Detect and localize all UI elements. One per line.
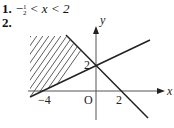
y-axis-arrow-icon bbox=[93, 26, 99, 34]
tick-label-x-2: 2 bbox=[116, 93, 122, 107]
origin-label: O bbox=[84, 93, 93, 107]
x-axis-label: x bbox=[166, 84, 173, 98]
tick-label-y-2: 2 bbox=[84, 58, 90, 72]
inequality-graph: y x O −4 2 2 bbox=[0, 0, 174, 128]
x-axis-arrow-icon bbox=[157, 88, 165, 94]
boundary-line-1 bbox=[30, 40, 150, 97]
tick-label-x-neg4: −4 bbox=[38, 93, 51, 107]
y-axis-label: y bbox=[99, 13, 106, 27]
